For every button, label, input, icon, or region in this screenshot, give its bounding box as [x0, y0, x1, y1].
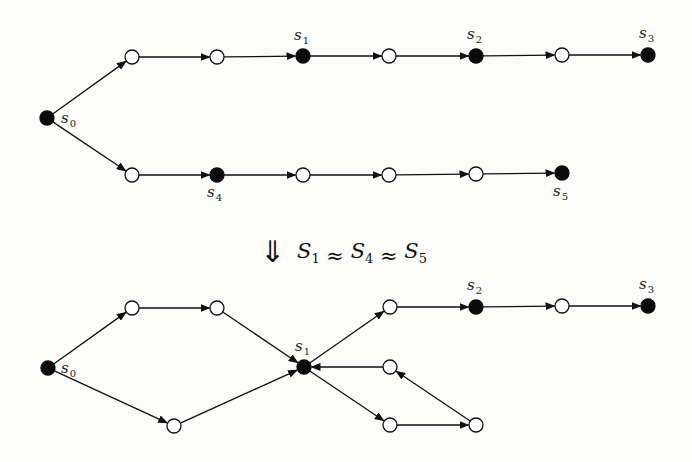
edge-t2-to-s1: [224, 56, 296, 57]
edge-b-to-s1: [223, 312, 298, 363]
edge-c-to-s1: [180, 370, 297, 423]
bottom-graph: s0s1s2s3: [41, 275, 655, 433]
intermediate-node-e: [383, 360, 397, 374]
edge-s1-to-f: [310, 371, 384, 421]
merge-transition: ⇓ S1 ≈ S4 ≈ S5: [260, 234, 427, 269]
equivalence-formula: S1 ≈ S4 ≈ S5: [297, 239, 427, 268]
state-node-s1: [296, 49, 310, 63]
edge-s2-to-h: [483, 306, 555, 307]
top-nodes: [40, 48, 655, 182]
state-node-s0: [41, 361, 55, 375]
node-label-s0: s0: [61, 109, 76, 129]
intermediate-node-a: [125, 301, 139, 315]
intermediate-node-b1: [125, 168, 139, 182]
intermediate-node-t2: [210, 50, 224, 64]
edge-b3-to-b4: [396, 174, 469, 175]
node-label-s5: s5: [553, 182, 568, 202]
state-node-s3: [641, 299, 655, 313]
bottom-edges: [54, 306, 641, 425]
node-label-s3: s3: [639, 24, 654, 44]
intermediate-node-t4: [555, 48, 569, 62]
edge-g-to-e: [396, 371, 470, 421]
top-graph: s0s1s2s3s4s5: [40, 24, 655, 203]
node-label-s0: s0: [61, 359, 76, 379]
intermediate-node-t3: [382, 49, 396, 63]
intermediate-node-g: [469, 418, 483, 432]
edge-b4-to-s5: [483, 173, 555, 174]
edge-s2-to-t4: [483, 55, 555, 56]
node-label-s4: s4: [207, 183, 222, 203]
top-edges: [53, 55, 641, 175]
bottom-nodes: [41, 299, 655, 433]
edge-s0-to-b1: [53, 122, 126, 171]
intermediate-node-b2: [296, 168, 310, 182]
state-node-s3: [641, 48, 655, 62]
node-label-s2: s2: [467, 25, 482, 45]
state-node-s5: [555, 166, 569, 180]
node-label-s1: s1: [295, 337, 310, 357]
state-node-s4: [210, 168, 224, 182]
state-node-s0: [40, 111, 54, 125]
intermediate-node-f: [383, 418, 397, 432]
intermediate-node-c: [167, 419, 181, 433]
state-node-s1: [297, 360, 311, 374]
intermediate-node-d: [383, 300, 397, 314]
intermediate-node-b4: [469, 167, 483, 181]
intermediate-node-h: [555, 299, 569, 313]
state-node-s2: [469, 300, 483, 314]
node-label-s3: s3: [639, 275, 654, 295]
edge-s0-to-a: [54, 312, 126, 364]
edge-s1-to-d: [310, 311, 384, 363]
state-diagram: s0s1s2s3s4s5 ⇓ S1 ≈ S4 ≈ S5 s0s1s2s3: [0, 0, 692, 462]
intermediate-node-b3: [382, 168, 396, 182]
state-node-s2: [469, 49, 483, 63]
intermediate-node-b: [210, 301, 224, 315]
bottom-labels: s0s1s2s3: [61, 275, 654, 379]
node-label-s1: s1: [294, 26, 309, 46]
edge-s0-to-t1: [53, 61, 126, 114]
intermediate-node-t1: [125, 50, 139, 64]
double-down-arrow-icon: ⇓: [260, 234, 285, 269]
node-label-s2: s2: [467, 276, 482, 296]
